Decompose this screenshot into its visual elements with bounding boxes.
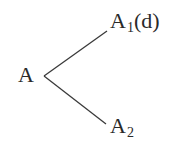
a2-label-text: A (110, 113, 126, 138)
child-node-a2-label: A2 (110, 115, 134, 137)
root-label-text: A (18, 62, 34, 87)
a1-subscript: 1 (127, 20, 134, 35)
edge-a-to-a1 (44, 31, 107, 76)
child-node-a1-label: A1(d) (110, 10, 160, 32)
edge-a-to-a2 (44, 76, 106, 124)
a1-suffix: (d) (134, 8, 160, 33)
root-node-label: A (18, 64, 34, 86)
a1-label-text: A (110, 8, 126, 33)
a2-subscript: 2 (127, 125, 134, 140)
tree-diagram: A A1(d) A2 (0, 0, 174, 141)
